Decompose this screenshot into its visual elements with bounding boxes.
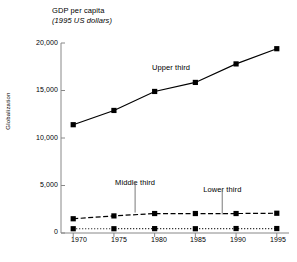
plot-area (0, 0, 297, 262)
chart-figure: GDP per capita (1995 US dollars) Globali… (0, 0, 297, 262)
